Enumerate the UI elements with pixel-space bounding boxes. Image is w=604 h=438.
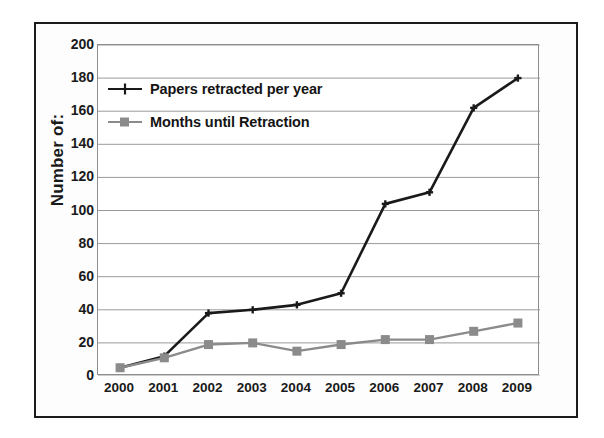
y-tick-label: 40: [54, 301, 94, 317]
data-point-marker: [425, 335, 434, 344]
y-tick-label: 180: [54, 69, 94, 85]
legend-item-months-until-retraction[interactable]: Months until Retraction: [108, 105, 378, 138]
y-tick-label: 20: [54, 334, 94, 350]
data-point-marker: [248, 338, 257, 347]
legend-marker-square-icon: [108, 115, 142, 129]
y-tick-label: 80: [54, 235, 94, 251]
legend-item-papers-retracted[interactable]: Papers retracted per year: [108, 72, 378, 105]
data-point-marker: [337, 340, 346, 349]
y-tick-label: 140: [54, 135, 94, 151]
data-point-marker: [469, 327, 478, 336]
data-point-marker: [116, 363, 125, 372]
y-axis-tick-labels: 020406080100120140160180200: [54, 44, 94, 375]
x-axis-tick-labels: 2000200120022003200420052006200720082009: [97, 380, 539, 406]
legend-label-months-until-retraction: Months until Retraction: [150, 114, 310, 130]
chart-legend: Papers retracted per year Months until R…: [108, 72, 378, 138]
legend-label-papers-retracted: Papers retracted per year: [150, 81, 322, 97]
y-tick-label: 100: [54, 202, 94, 218]
data-point-marker: [293, 301, 300, 308]
data-point-marker: [381, 335, 390, 344]
y-tick-label: 200: [54, 36, 94, 52]
y-tick-label: 160: [54, 102, 94, 118]
data-point-marker: [204, 340, 213, 349]
x-tick-label: 2009: [490, 380, 544, 395]
legend-marker-cross-icon: [108, 82, 142, 96]
data-point-marker: [160, 353, 169, 362]
y-tick-label: 60: [54, 268, 94, 284]
y-tick-label: 0: [54, 367, 94, 383]
y-tick-label: 120: [54, 168, 94, 184]
data-point-marker: [249, 306, 256, 313]
series-line: [120, 323, 518, 368]
chart-figure: Number of: 020406080100120140160180200 2…: [0, 0, 604, 438]
data-point-marker: [292, 347, 301, 356]
data-point-marker: [513, 319, 522, 328]
